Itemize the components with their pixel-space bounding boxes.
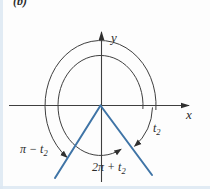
y-axis-label: y — [109, 30, 117, 45]
figure-canvas: (b) y x t2 π − t2 2π + t2 — [0, 0, 210, 189]
angle-2pi-plus-t2-sub: 2 — [121, 166, 126, 176]
arc-t2 — [135, 107, 153, 146]
angle-arcs — [45, 41, 156, 158]
unit-circle-diagram: (b) y x t2 π − t2 2π + t2 — [0, 0, 210, 189]
angle-t2-sub: 2 — [156, 127, 161, 137]
angle-pi-minus-t2-main: π − t — [20, 142, 44, 156]
angle-2pi-plus-t2-main: 2π + t — [92, 160, 122, 174]
angle-pi-minus-t2-label: π − t2 — [20, 142, 48, 158]
angle-2pi-plus-t2-label: 2π + t2 — [92, 160, 126, 176]
x-axis-label: x — [185, 107, 192, 122]
angle-pi-minus-t2-sub: 2 — [43, 148, 48, 158]
angle-t2-label: t2 — [153, 121, 161, 137]
arc-pi-minus-t2 — [45, 41, 156, 158]
figure-part-label: (b) — [13, 0, 27, 8]
